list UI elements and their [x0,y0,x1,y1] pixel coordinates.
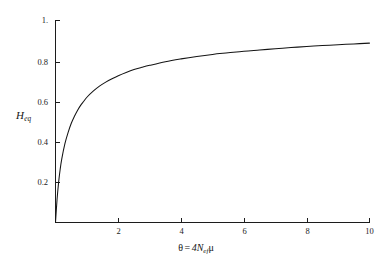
x-tick-marks [119,218,370,223]
plot-canvas [0,0,392,266]
x-axis-label-mu: μ [208,242,213,253]
y-axis-label-subscript: eq [24,115,31,123]
y-tick-marks [56,21,61,183]
data-curve-heq [56,43,370,222]
x-tick-label-8: 8 [295,227,320,236]
x-tick-label-4: 4 [169,227,194,236]
y-axis-label: Heq [16,110,31,121]
y-tick-label-0.2: 0.2 [18,178,48,187]
x-tick-label-6: 6 [232,227,257,236]
y-tick-label-0.6: 0.6 [18,98,48,107]
x-axis-label-subscript: ef [203,247,208,255]
y-tick-label-1: 1. [18,16,48,25]
chart-figure: 1. 0.8 0.6 0.4 0.2 2 4 6 8 10 Heq θ=4Nef… [0,0,392,266]
y-tick-label-0.4: 0.4 [18,138,48,147]
y-axis-label-base: H [16,109,24,121]
x-tick-label-10: 10 [357,227,382,236]
y-tick-label-0.8: 0.8 [18,58,48,67]
x-axis-label: θ=4Nefμ [0,243,392,253]
x-axis-label-equals: = [183,242,192,253]
x-tick-label-2: 2 [106,227,131,236]
